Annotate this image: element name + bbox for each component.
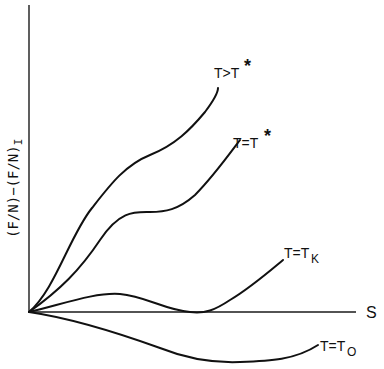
y-axis-label: (F/N)−(F/N)I: [5, 139, 25, 238]
curve-t-eq-tk: [29, 260, 283, 313]
svg-text:T>T: T>T: [214, 65, 240, 81]
label-t-eq-t0: T=T O: [320, 338, 356, 359]
svg-text:T=T: T=T: [233, 135, 259, 151]
curve-t-eq-tstar: [29, 140, 240, 312]
label-t-gt-tstar: T>T *: [214, 56, 251, 81]
label-t-eq-tstar: T=T *: [233, 126, 271, 151]
svg-text:(F/N)−(F/N)I: (F/N)−(F/N)I: [5, 139, 25, 238]
curve-t-eq-t0: [29, 312, 318, 362]
x-axis-label: S: [366, 304, 377, 321]
svg-text:*: *: [264, 126, 271, 146]
svg-text:*: *: [244, 56, 251, 76]
label-t-eq-tk: T=T K: [284, 245, 319, 266]
svg-text:O: O: [347, 345, 356, 359]
svg-text:T=T: T=T: [320, 338, 346, 354]
svg-text:T=T: T=T: [284, 245, 310, 261]
svg-text:K: K: [311, 252, 319, 266]
diagram-canvas: (F/N)−(F/N)I S T>T * T=T * T=T K T=T O: [0, 0, 384, 369]
